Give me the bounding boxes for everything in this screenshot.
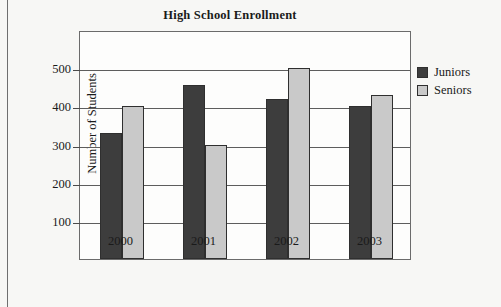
legend-item-juniors: Juniors [417, 64, 472, 80]
x-axis-tick-label: 2000 [91, 234, 151, 249]
bar-seniors-2002 [288, 68, 310, 259]
y-axis-label: Number of Students [85, 0, 100, 254]
legend-swatch-juniors [417, 67, 428, 78]
x-axis-tick-label: 2001 [174, 234, 234, 249]
bar-chart-figure: High School Enrollment Number of Student… [0, 0, 501, 307]
chart-legend: JuniorsSeniors [417, 64, 472, 100]
chart-title: High School Enrollment [0, 8, 460, 23]
y-axis-tick: 300 [36, 147, 80, 148]
y-axis-tick-label: 100 [52, 215, 71, 230]
legend-label: Juniors [434, 65, 470, 80]
y-axis-tick-mark [73, 70, 80, 71]
x-axis-tick-label: 2003 [340, 234, 400, 249]
y-axis-tick-label: 500 [52, 62, 71, 77]
y-axis-tick-mark [73, 223, 80, 224]
plot-area: Number of Students 100200300400500 [79, 31, 411, 260]
x-axis-tick-label: 2002 [257, 234, 317, 249]
legend-label: Seniors [434, 83, 472, 98]
legend-item-seniors: Seniors [417, 82, 472, 98]
y-axis-tick-mark [73, 185, 80, 186]
y-axis-tick: 500 [36, 70, 80, 71]
y-axis-tick: 400 [36, 108, 80, 109]
y-axis-tick-label: 400 [52, 100, 71, 115]
y-axis-tick: 100 [36, 223, 80, 224]
y-axis-tick-label: 300 [52, 139, 71, 154]
y-axis-tick-mark [73, 147, 80, 148]
legend-swatch-seniors [417, 85, 428, 96]
y-axis-tick-label: 200 [52, 177, 71, 192]
y-axis-tick: 200 [36, 185, 80, 186]
y-axis-tick-mark [73, 108, 80, 109]
gridline [80, 70, 410, 71]
bar-juniors-2001 [183, 85, 205, 259]
